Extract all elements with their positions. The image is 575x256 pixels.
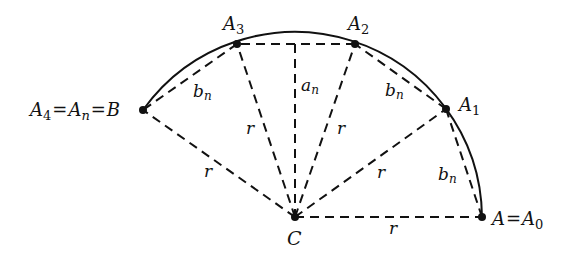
label-an: an: [301, 75, 319, 97]
label-r-CA1: r: [377, 162, 386, 182]
radius-C-A1: [295, 109, 446, 217]
label-r-CA0: r: [389, 218, 398, 238]
point-A1: [442, 105, 450, 113]
point-A0: [478, 213, 486, 221]
label-bn-A3B: bn: [193, 81, 212, 103]
chord-A0-A1: [446, 109, 482, 217]
point-A3: [233, 40, 241, 48]
label-A1: A1: [457, 94, 480, 118]
label-A3: A3: [221, 13, 244, 37]
label-r-CA3: r: [246, 118, 255, 138]
inscribed-polygon-diagram: A=A0 A1 A2 A3 A4=An=B C an bn bn bn r r …: [0, 0, 575, 256]
label-A0: A=A0: [490, 208, 543, 232]
label-B: A4=An=B: [28, 99, 120, 123]
point-C: [291, 213, 299, 221]
chord-A3-B: [143, 44, 237, 110]
label-r-CB: r: [204, 161, 213, 181]
point-B: [139, 106, 147, 114]
radius-C-B: [143, 110, 295, 217]
radius-C-A2: [295, 44, 355, 217]
label-bn-A1A2: bn: [385, 80, 404, 102]
point-A2: [351, 40, 359, 48]
label-r-CA2: r: [337, 118, 346, 138]
label-C: C: [287, 227, 302, 249]
circular-arc: [143, 32, 482, 217]
label-bn-A0A1: bn: [438, 164, 457, 186]
label-A2: A2: [346, 13, 369, 37]
